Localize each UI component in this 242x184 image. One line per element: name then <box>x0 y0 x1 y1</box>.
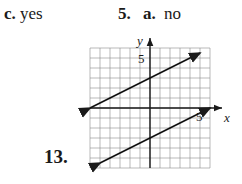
y-tick-5: 5 <box>138 51 145 66</box>
x-axis-label: x <box>223 110 230 125</box>
y-axis-label: y <box>135 33 143 48</box>
coordinate-graph: x y 5 5 <box>0 0 242 184</box>
lower-line <box>100 108 210 163</box>
x-tick-5: 5 <box>196 109 203 124</box>
upper-line <box>90 53 200 108</box>
